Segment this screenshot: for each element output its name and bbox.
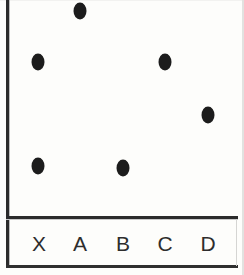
data-point <box>32 158 45 175</box>
data-point <box>202 107 215 124</box>
plot-area <box>10 0 238 216</box>
x-axis-tick-label: A <box>73 232 87 253</box>
data-point <box>117 160 130 177</box>
data-point <box>32 54 45 71</box>
x-axis-tick-label: D <box>200 232 215 253</box>
x-axis-tick-label: X <box>32 232 46 253</box>
x-axis-label-band: XABCD <box>9 220 237 265</box>
x-axis-tick-label: C <box>157 232 172 253</box>
paper-edge-right <box>242 0 244 275</box>
data-point <box>159 54 172 71</box>
figure-bottom-border <box>6 265 238 268</box>
x-axis-tick-label: B <box>116 232 130 253</box>
scatter-plot-figure: XABCD <box>0 0 244 275</box>
data-point <box>74 3 87 20</box>
